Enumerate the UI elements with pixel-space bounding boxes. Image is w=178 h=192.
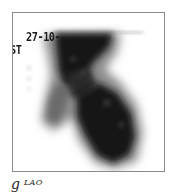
scintigraphy-panel: 27-10- ST [12, 12, 165, 172]
figure-caption: gLAO [11, 174, 43, 192]
view-label: LAO [24, 178, 43, 187]
side-marker-overlay: ST [12, 44, 21, 56]
date-overlay: 27-10- [26, 31, 60, 43]
panel-letter: g [11, 176, 20, 192]
